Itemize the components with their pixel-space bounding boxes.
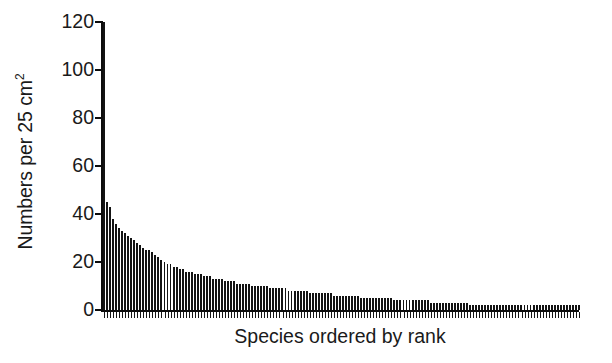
x-axis-tick-mark (222, 312, 223, 318)
bar (545, 305, 547, 310)
x-axis-tick-mark (404, 312, 405, 318)
bar (115, 224, 117, 310)
x-axis-tick-mark (355, 312, 356, 318)
bar (173, 267, 175, 310)
bar (481, 305, 483, 310)
bar (321, 293, 323, 310)
bar (318, 293, 320, 310)
x-axis-tick-mark (273, 312, 274, 318)
x-axis-tick-mark (522, 312, 523, 318)
x-axis-tick-mark (243, 312, 244, 318)
x-axis-tick-mark (546, 312, 547, 318)
bar (221, 279, 223, 310)
x-axis-tick-mark (301, 312, 302, 318)
bar (360, 298, 362, 310)
x-axis-tick-mark (171, 312, 172, 318)
bar (493, 305, 495, 310)
bar (451, 303, 453, 310)
x-axis-tick-mark (506, 312, 507, 318)
bar (496, 305, 498, 310)
bar (387, 298, 389, 310)
x-axis-tick-mark (143, 312, 144, 318)
x-axis-tick-mark (110, 312, 111, 318)
bar (139, 245, 141, 310)
bar (239, 284, 241, 310)
bar (154, 255, 156, 310)
x-axis-tick-mark (419, 312, 420, 318)
bar (533, 305, 535, 310)
x-axis-tick-mark (292, 312, 293, 318)
x-axis-tick-mark (267, 312, 268, 318)
bar (466, 303, 468, 310)
x-axis-tick-mark (116, 312, 117, 318)
bar (291, 291, 293, 310)
bar (490, 305, 492, 310)
x-axis-tick-mark (391, 312, 392, 318)
y-axis-tick-labels: 020406080100120 (48, 0, 94, 363)
x-axis-tick-mark (525, 312, 526, 318)
x-axis-tick-mark (461, 312, 462, 318)
x-axis-tick-mark (376, 312, 377, 318)
bar (445, 303, 447, 310)
x-axis-tick-mark (328, 312, 329, 318)
x-axis-tick-mark (228, 312, 229, 318)
bar (242, 284, 244, 310)
bar (306, 291, 308, 310)
x-axis-tick-mark (515, 312, 516, 318)
bar (454, 303, 456, 310)
bar (212, 279, 214, 310)
x-axis-tick-mark (177, 312, 178, 318)
bar (330, 293, 332, 310)
bar (209, 276, 211, 310)
x-axis-tick-mark (186, 312, 187, 318)
bar (148, 250, 150, 310)
bar (457, 303, 459, 310)
x-axis-tick-mark (137, 312, 138, 318)
x-axis-tick-mark (476, 312, 477, 318)
bar (354, 296, 356, 310)
bar (230, 281, 232, 310)
x-axis-tick-mark (446, 312, 447, 318)
x-axis-tick-mark (201, 312, 202, 318)
bar (514, 305, 516, 310)
x-axis-tick-mark (482, 312, 483, 318)
x-axis-tick-mark (567, 312, 568, 318)
x-axis-tick-mark (488, 312, 489, 318)
x-axis-tick-mark (443, 312, 444, 318)
bar (524, 305, 526, 310)
bar (560, 305, 562, 310)
bar (248, 284, 250, 310)
bar (127, 236, 129, 310)
x-axis-tick-mark (279, 312, 280, 318)
x-axis-tick-mark (452, 312, 453, 318)
x-axis-tick-mark (543, 312, 544, 318)
x-axis-tick-mark (261, 312, 262, 318)
bar (160, 260, 162, 310)
bar (312, 293, 314, 310)
x-axis-tick-mark (225, 312, 226, 318)
y-axis-tick-mark (95, 309, 103, 311)
x-axis-tick-mark (283, 312, 284, 318)
x-axis-tick-mark (407, 312, 408, 318)
x-axis-tick-mark (373, 312, 374, 318)
bar (130, 238, 132, 310)
y-axis-tick-label: 60 (48, 156, 94, 176)
x-axis-tick-mark (161, 312, 162, 318)
x-axis-tick-mark (537, 312, 538, 318)
x-axis-tick-mark (134, 312, 135, 318)
bar (469, 305, 471, 310)
x-axis-tick-mark (152, 312, 153, 318)
bar (215, 279, 217, 310)
x-axis-tick-mark (570, 312, 571, 318)
bar (487, 305, 489, 310)
bar (551, 305, 553, 310)
bar (118, 228, 120, 310)
bar (157, 257, 159, 310)
x-axis-tick-mark (207, 312, 208, 318)
x-axis-tick-mark (512, 312, 513, 318)
bar (191, 272, 193, 310)
y-axis-tick-label: 40 (48, 204, 94, 224)
x-axis-tick-mark (410, 312, 411, 318)
x-axis-tick-mark (307, 312, 308, 318)
bar (266, 286, 268, 310)
